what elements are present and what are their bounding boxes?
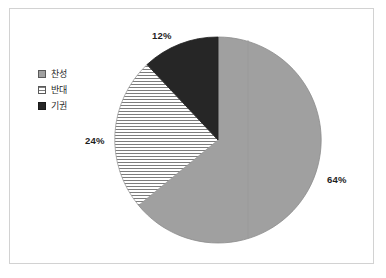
legend-label-oppose: 반대: [51, 85, 67, 95]
chart-legend: 찬성 반대 기권: [38, 66, 98, 114]
chart-canvas: 찬성 반대 기권 12% 24% 64%: [0, 0, 386, 278]
legend-swatch-agree-icon: [38, 70, 46, 78]
pie-chart-graphic: [0, 0, 386, 278]
data-label-abstain: 12%: [152, 30, 172, 41]
legend-swatch-abstain-icon: [38, 102, 46, 110]
data-label-oppose: 24%: [85, 135, 105, 146]
legend-item-oppose[interactable]: 반대: [38, 82, 98, 97]
legend-item-abstain[interactable]: 기권: [38, 98, 98, 113]
legend-label-abstain: 기권: [51, 101, 67, 111]
data-label-agree: 64%: [327, 174, 347, 185]
legend-swatch-oppose-icon: [38, 86, 46, 94]
legend-label-agree: 찬성: [51, 69, 67, 79]
legend-item-agree[interactable]: 찬성: [38, 66, 98, 81]
